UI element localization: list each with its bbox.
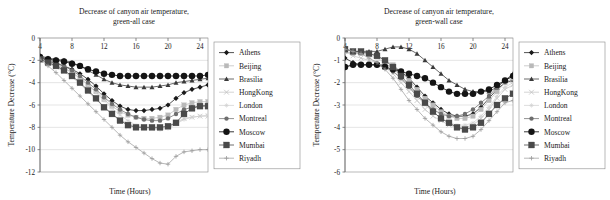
data-point	[407, 89, 412, 94]
series-moscow	[342, 62, 516, 97]
data-point	[109, 72, 115, 78]
data-point	[149, 107, 154, 112]
data-point	[189, 73, 195, 79]
y-axis-title: Temperature Decrease (°C)	[7, 63, 16, 147]
data-point	[430, 109, 436, 115]
x-axis-tick-label: 20	[469, 43, 477, 51]
data-point	[141, 73, 147, 79]
data-point	[93, 68, 99, 74]
legend-label: Montreal	[239, 114, 267, 123]
data-point	[455, 82, 460, 87]
data-point	[142, 151, 146, 155]
legend-marker	[224, 142, 230, 148]
data-point	[463, 136, 467, 140]
x-axis-tick-label: 20	[164, 43, 172, 51]
legend-label: Riyadh	[544, 154, 566, 163]
chart-canvas-green-wall: Decrease of canyon air temperature,green…	[305, 0, 610, 200]
legend-marker	[224, 64, 228, 68]
data-point	[511, 98, 515, 102]
data-point	[125, 107, 130, 112]
data-point	[374, 53, 380, 59]
legend-label: London	[239, 101, 263, 110]
data-point	[494, 102, 500, 108]
data-point	[471, 107, 475, 111]
data-point	[165, 123, 171, 129]
y-axis-tick-label: -5	[334, 146, 340, 154]
data-point	[157, 106, 162, 111]
data-point	[479, 101, 483, 105]
data-point	[118, 107, 122, 111]
data-point	[181, 73, 187, 79]
data-point	[414, 73, 420, 79]
data-point	[487, 98, 491, 102]
series-group	[342, 44, 516, 140]
data-point	[390, 64, 396, 70]
legend-label: Moscow	[544, 128, 571, 137]
data-point	[93, 95, 99, 101]
data-point	[78, 74, 82, 78]
data-point	[447, 134, 451, 138]
data-point	[197, 85, 202, 90]
data-point	[189, 87, 194, 92]
x-axis-title: Time (Hours)	[109, 187, 151, 196]
legend-marker	[529, 142, 535, 148]
data-point	[446, 88, 452, 94]
data-point	[173, 120, 179, 126]
chart-subtitle: green-all case	[113, 17, 156, 26]
data-point	[126, 112, 130, 116]
data-point	[101, 104, 107, 110]
data-point	[455, 114, 459, 118]
data-point	[350, 62, 356, 68]
data-point	[438, 115, 444, 121]
data-point	[198, 114, 202, 118]
data-point	[117, 118, 123, 124]
data-point	[510, 91, 516, 97]
data-point	[382, 57, 388, 63]
y-axis-tick-label: 0	[31, 35, 35, 43]
data-point	[69, 60, 75, 66]
x-axis-tick-label: 24	[501, 43, 509, 51]
y-axis-tick-label: -2	[334, 79, 340, 87]
data-point	[77, 80, 83, 86]
legend-marker	[528, 129, 534, 135]
data-point	[174, 107, 178, 111]
legend-label: Montreal	[544, 114, 572, 123]
y-axis-title: Temperature Decrease (°C)	[312, 63, 321, 147]
data-point	[182, 150, 186, 154]
data-point	[142, 117, 146, 121]
data-point	[70, 68, 74, 72]
legend-marker	[223, 129, 229, 135]
legend-label: Athens	[544, 48, 566, 57]
x-axis-tick-label: 8	[70, 43, 74, 51]
data-point	[133, 124, 139, 130]
y-axis-tick-label: -2	[29, 57, 35, 65]
chart-subtitle: green-wall case	[415, 17, 463, 26]
data-point	[166, 116, 170, 120]
data-point	[149, 73, 155, 79]
data-point	[86, 80, 90, 84]
data-point	[366, 51, 372, 57]
x-axis-tick-label: 24	[196, 43, 204, 51]
data-point	[53, 63, 59, 69]
data-point	[85, 87, 91, 93]
y-axis-tick-label: -6	[334, 169, 340, 177]
data-point	[487, 94, 491, 98]
data-point	[165, 73, 171, 79]
data-point	[125, 122, 131, 128]
data-point	[206, 113, 210, 117]
legend-label: HongKong	[239, 88, 273, 97]
data-point	[462, 127, 468, 133]
data-point	[455, 136, 459, 140]
chart-green-all: Decrease of canyon air temperature,green…	[0, 0, 305, 200]
data-point	[109, 111, 115, 117]
chart-green-wall: Decrease of canyon air temperature,green…	[305, 0, 610, 200]
data-point	[133, 73, 139, 79]
data-point	[470, 91, 476, 97]
data-point	[173, 73, 179, 79]
data-point	[510, 73, 516, 79]
data-point	[406, 71, 412, 77]
data-point	[447, 114, 451, 118]
data-point	[342, 64, 348, 70]
data-point	[494, 82, 500, 88]
data-point	[342, 56, 347, 61]
